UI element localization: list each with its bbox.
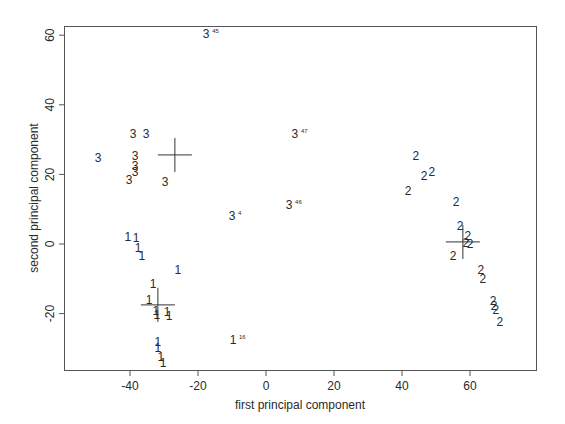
point-cluster-1: 1 (139, 249, 146, 263)
point-annotation: 46 (295, 199, 302, 205)
point-cluster-3: 3 (286, 198, 293, 212)
point-cluster-1: 1 (230, 333, 237, 347)
point-cluster-3: 3 (95, 151, 102, 165)
point-cluster-2: 2 (453, 195, 460, 209)
y-tick-label: 20 (43, 167, 57, 181)
y-tick-label: 40 (43, 98, 57, 112)
x-tick-label: -20 (189, 379, 207, 393)
point-cluster-2: 2 (480, 272, 487, 286)
point-cluster-1: 1 (125, 230, 132, 244)
point-annotation: 45 (212, 28, 219, 34)
point-cluster-2: 2 (405, 184, 412, 198)
y-axis-label: second principal component (27, 123, 41, 273)
point-cluster-2: 2 (497, 315, 504, 329)
point-cluster-3: 3 (132, 165, 139, 179)
point-cluster-3: 3 (229, 209, 236, 223)
point-annotation: 4 (238, 210, 242, 216)
point-cluster-1: 1 (160, 356, 167, 370)
point-cluster-2: 2 (450, 249, 457, 263)
point-cluster-1: 1 (150, 277, 157, 291)
point-annotation: 47 (301, 128, 308, 134)
y-axis: -200204060 (43, 28, 64, 322)
x-tick-label: 20 (327, 379, 341, 393)
x-tick-label: 60 (463, 379, 477, 393)
x-tick-label: -40 (121, 379, 139, 393)
point-cluster-3: 3 (292, 127, 299, 141)
x-axis-label: first principal component (235, 398, 366, 412)
point-cluster-2: 2 (429, 165, 436, 179)
x-tick-label: 40 (395, 379, 409, 393)
point-cluster-3: 3 (143, 127, 150, 141)
scatter-plot: -40-200204060 -200204060 111111111111111… (0, 0, 565, 424)
point-cluster-3: 3 (203, 27, 210, 41)
point-cluster-1: 1 (154, 308, 161, 322)
y-tick-label: 60 (43, 28, 57, 42)
y-tick-label: -20 (43, 305, 57, 323)
point-cluster-2: 2 (467, 237, 474, 251)
point-cluster-1: 1 (175, 263, 182, 277)
point-cluster-3: 3 (130, 127, 137, 141)
data-points: 1111111111111111162222222222222222333333… (95, 27, 504, 370)
x-tick-label: 0 (263, 379, 270, 393)
x-axis: -40-200204060 (121, 371, 477, 393)
point-cluster-1: 1 (166, 309, 173, 323)
centroid-cross-cluster-3 (158, 138, 192, 172)
point-cluster-2: 2 (421, 169, 428, 183)
point-cluster-3: 3 (162, 175, 169, 189)
point-cluster-2: 2 (413, 149, 420, 163)
y-tick-label: 0 (43, 240, 57, 247)
point-cluster-3: 3 (126, 173, 133, 187)
point-annotation: 16 (239, 334, 246, 340)
